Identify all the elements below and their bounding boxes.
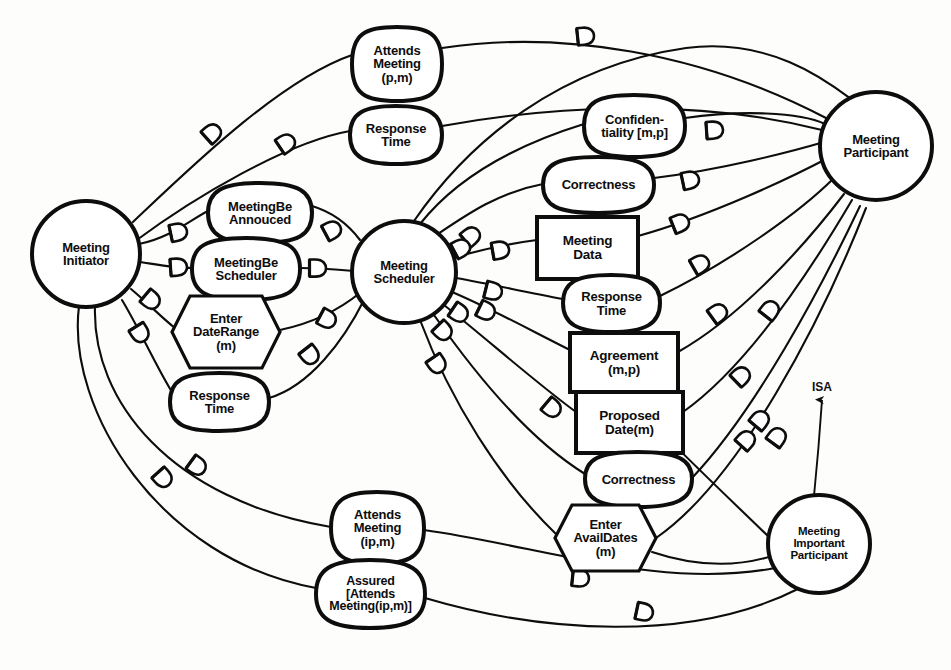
diagram-edges-layer [0,0,951,670]
diagram-canvas: Meeting Initiator Meeting Scheduler Meet… [0,0,951,670]
isa-link [814,400,822,496]
isa-link-label: ISA [812,380,832,394]
